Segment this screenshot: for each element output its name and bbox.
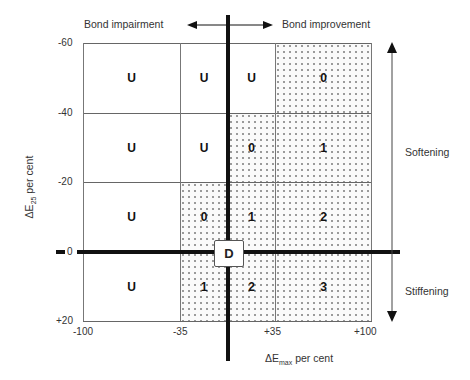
bond-improvement-label: Bond improvement: [282, 18, 370, 30]
y-tick: -20: [58, 176, 72, 187]
y-tick: +20: [56, 315, 73, 326]
grid-cell: U: [83, 182, 180, 252]
grid-cell: U: [180, 43, 228, 113]
y-axis-label: ΔE25 per cent: [23, 147, 37, 227]
x-tick: -35: [173, 326, 187, 337]
horizontal-axis-right: [244, 250, 400, 254]
axis-stub: [56, 250, 65, 254]
grid-cell: U: [228, 43, 275, 113]
y-tick: -60: [58, 37, 72, 48]
grid-cell: U: [83, 252, 180, 321]
grid-line: [371, 43, 372, 321]
x-axis-label: ΔEmax per cent: [265, 352, 333, 366]
x-tick: +100: [354, 326, 377, 337]
softening-label: Softening: [405, 146, 449, 158]
grid-line: [180, 43, 181, 321]
horizontal-double-arrow-icon: [185, 15, 275, 35]
grid-cell: U: [83, 43, 180, 113]
stiffening-label: Stiffening: [405, 285, 449, 297]
grid-cell: 0: [275, 43, 372, 113]
vertical-double-arrow-icon: [382, 40, 402, 325]
grid-line: [275, 43, 276, 321]
grid-cell: 3: [275, 252, 372, 321]
vertical-axis-mid: [226, 159, 230, 240]
x-tick: -100: [73, 326, 93, 337]
y-tick: 0: [67, 246, 73, 257]
bond-impairment-label: Bond impairment: [84, 18, 163, 30]
x-tick: +35: [264, 326, 281, 337]
grid-cell: 0: [228, 113, 275, 182]
grid-cell: U: [180, 113, 228, 182]
y-tick: -40: [58, 107, 72, 118]
vertical-axis-upper: [226, 15, 230, 159]
grid-line: [83, 43, 84, 321]
grid-cell: 1: [275, 113, 372, 182]
horizontal-axis-left: [77, 250, 214, 254]
grid-cell: U: [83, 113, 180, 182]
center-marker: D: [214, 240, 244, 267]
grid-cell: 2: [275, 182, 372, 252]
vertical-axis-lower: [226, 267, 230, 361]
